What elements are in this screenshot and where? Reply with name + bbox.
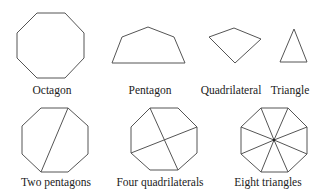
label-triangle: Triangle xyxy=(271,85,310,97)
label-eight-triangles: Eight triangles xyxy=(234,177,301,189)
four-quadrilaterals-shape xyxy=(131,108,197,170)
pentagon-shape xyxy=(112,27,185,63)
label-quadrilateral: Quadrilateral xyxy=(201,85,262,97)
label-two-pentagons: Two pentagons xyxy=(21,177,91,189)
label-octagon: Octagon xyxy=(33,85,72,97)
octagon-shape xyxy=(17,13,84,78)
quadrilateral-shape xyxy=(209,28,261,63)
eight-triangles-shape xyxy=(241,108,307,172)
two-pentagons-shape xyxy=(22,108,88,172)
center-point xyxy=(273,139,275,141)
triangle-shape xyxy=(280,29,307,62)
label-four-quadrilaterals: Four quadrilaterals xyxy=(116,177,203,189)
label-pentagon: Pentagon xyxy=(129,85,172,97)
